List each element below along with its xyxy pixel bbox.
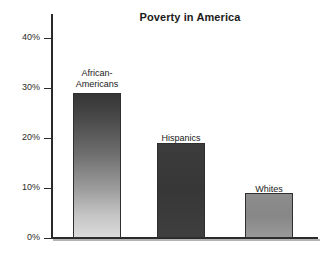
bar-label-hispanics: Hispanics (147, 133, 215, 144)
bar-outline (73, 93, 121, 238)
y-tick-label-40: 40% (0, 33, 40, 42)
bar-hispanics[interactable] (157, 143, 205, 238)
y-tick-label-0: 0% (0, 233, 40, 242)
x-axis-shadow (53, 239, 320, 241)
y-tick-label-20: 20% (0, 133, 40, 142)
y-tick-label-30: 30% (0, 83, 40, 92)
y-tick-label-10: 10% (0, 183, 40, 192)
poverty-bar-chart: Poverty in America 40% 30% 20% 10% 0% Af… (0, 0, 325, 258)
bar-outline (245, 193, 293, 238)
bar-label-african-americans: African- Americans (61, 68, 133, 90)
bar-african-americans[interactable] (73, 93, 121, 238)
bar-outline (157, 143, 205, 238)
bar-whites[interactable] (245, 193, 293, 238)
plot-area: African- Americans Hispanics Whites (51, 14, 318, 238)
bar-label-whites: Whites (237, 184, 301, 195)
y-tick-0 (44, 238, 52, 239)
